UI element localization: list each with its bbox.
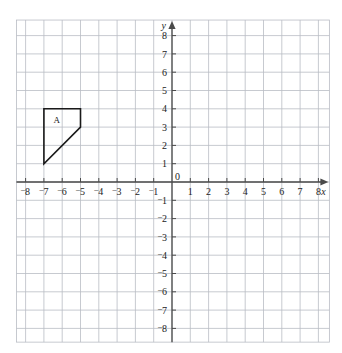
x-tick-label: –3 xyxy=(112,185,122,197)
y-tick-label: 8 xyxy=(162,30,167,41)
x-tick-label: –6 xyxy=(57,185,67,197)
y-axis-name: y xyxy=(161,20,167,31)
x-tick-label: 5 xyxy=(261,186,266,197)
x-tick-label: 6 xyxy=(279,186,284,197)
y-tick-label: –8 xyxy=(157,322,167,334)
x-tick-label: –8 xyxy=(20,185,30,197)
y-tick-label: 5 xyxy=(162,85,167,96)
y-tick-label: –7 xyxy=(157,304,167,316)
y-tick-label: –5 xyxy=(157,267,167,279)
x-axis-arrowhead xyxy=(320,178,328,185)
x-tick-label: 3 xyxy=(224,186,229,197)
x-tick-label: 8 xyxy=(316,186,321,197)
x-tick-label: –7 xyxy=(38,185,48,197)
y-tick-label: 4 xyxy=(162,103,167,114)
y-tick-label: –6 xyxy=(157,286,167,298)
y-tick-label: –4 xyxy=(157,249,167,261)
y-tick-label: –1 xyxy=(157,194,167,206)
y-tick-label: –2 xyxy=(157,212,167,224)
coordinate-grid-figure: –8–7–6–5–4–3–2–112345678–8–7–6–5–4–3–2–1… xyxy=(0,0,342,353)
y-tick-label: –3 xyxy=(157,231,167,243)
origin-label: 0 xyxy=(175,171,180,182)
y-tick-label: 1 xyxy=(162,158,167,169)
y-tick-label: 7 xyxy=(162,49,167,60)
y-tick-label: 2 xyxy=(162,140,167,151)
x-tick-label: 2 xyxy=(206,186,211,197)
x-axis-name: x xyxy=(320,186,326,197)
x-tick-label: 1 xyxy=(188,186,193,197)
x-tick-label: –5 xyxy=(75,185,85,197)
y-tick-label: 3 xyxy=(162,122,167,133)
y-axis-arrowhead xyxy=(168,21,175,29)
shape-label-a: A xyxy=(53,115,60,125)
grid-border xyxy=(16,20,329,342)
x-tick-label: 7 xyxy=(298,186,303,197)
x-tick-label: 4 xyxy=(243,186,248,197)
x-tick-label: –4 xyxy=(93,185,103,197)
grid-lines xyxy=(16,20,329,342)
x-tick-label: –1 xyxy=(148,185,158,197)
x-tick-label: –2 xyxy=(130,185,140,197)
coordinate-plane-svg: –8–7–6–5–4–3–2–112345678–8–7–6–5–4–3–2–1… xyxy=(0,0,342,353)
y-tick-label: 6 xyxy=(162,67,167,78)
